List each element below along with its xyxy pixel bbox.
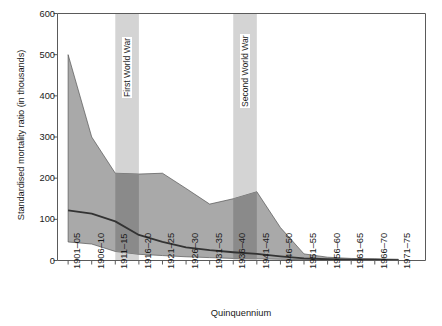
x-tick-label: 1971–75: [402, 232, 412, 268]
x-tick-label: 1931–35: [214, 232, 224, 268]
y-tick-label: 100: [29, 214, 55, 224]
x-tick-label: 1916–20: [143, 232, 153, 268]
y-tick-label: 200: [29, 173, 55, 183]
x-tick-label: 1906–10: [96, 232, 106, 268]
x-tick-label: 1951–55: [308, 232, 318, 268]
x-axis-title: Quinquennium: [57, 307, 425, 319]
y-tick-label: 400: [29, 91, 55, 101]
x-tick-label: 1926–30: [190, 232, 200, 268]
plot-area: [0, 0, 442, 326]
y-tick-label: 600: [29, 9, 55, 19]
x-tick-label: 1921–25: [166, 232, 176, 268]
chart-container: Standardised mortality ratio (in thousan…: [0, 0, 442, 326]
x-tick-label: 1936–40: [237, 232, 247, 268]
x-tick-label: 1901–05: [72, 232, 82, 268]
x-tick-label: 1941–45: [261, 232, 271, 268]
x-tick-label: 1961–65: [355, 232, 365, 268]
y-tick-label: 300: [29, 132, 55, 142]
war-period-label: Second World War: [240, 34, 250, 108]
war-period-label: First World War: [122, 37, 132, 98]
x-tick-label: 1956–60: [332, 232, 342, 268]
y-tick-label: 0: [29, 256, 55, 266]
x-tick-label: 1966–70: [379, 232, 389, 268]
y-tick-label: 500: [29, 50, 55, 60]
x-tick-label: 1911–15: [119, 233, 129, 269]
x-tick-label: 1946–50: [284, 232, 294, 268]
